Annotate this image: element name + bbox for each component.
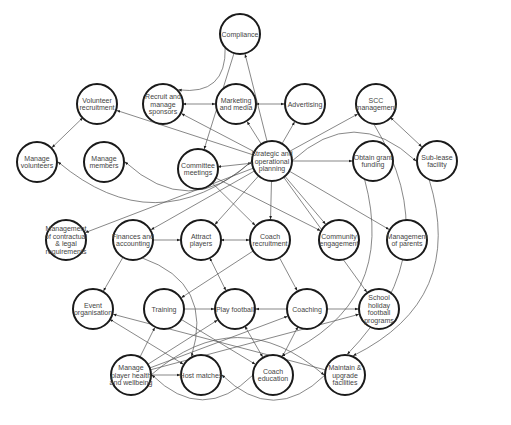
edge-volunteer-recruitment-to-manage-volunteers	[52, 118, 83, 148]
edge-strategic-planning-to-marketing-media	[247, 122, 261, 144]
network-diagram: ComplianceVolunteerrecruitmentRecruit an…	[0, 0, 511, 425]
node-label: organisation	[74, 309, 112, 317]
edge-player-health-to-maintain-facilities	[151, 338, 324, 375]
node-manage-members: Managemembers	[84, 142, 124, 182]
node-label: sponsors	[149, 108, 178, 116]
node-label: Compliance	[222, 31, 259, 39]
node-label: School	[368, 294, 390, 301]
node-event-organisation: Eventorganisation	[73, 289, 113, 329]
node-community-engagement: Communityengagement	[319, 220, 359, 260]
node-recruit-sponsors: Recruit andmanagesponsors	[143, 84, 183, 124]
node-coaching: Coaching	[287, 289, 327, 329]
node-label: Host matches	[180, 372, 223, 379]
node-label: Maintain &	[328, 364, 361, 371]
node-label: Volunteer	[82, 97, 112, 104]
edge-strategic-planning-to-community-engagement	[285, 176, 325, 224]
edge-committee-meetings-to-coach-recruitment	[212, 183, 255, 225]
node-label: requirements	[46, 248, 87, 256]
node-label: Attract	[191, 233, 211, 240]
edge-obtain-grant-to-coach-education	[282, 179, 372, 356]
node-label: Sub-lease	[421, 154, 453, 161]
node-label: recruitment	[79, 104, 114, 111]
edge-finances-to-event-organisation	[104, 257, 123, 291]
node-label: Coach	[260, 233, 280, 240]
node-label: facilities	[333, 379, 358, 386]
node-committee-meetings: Committeemeetings	[178, 149, 218, 189]
node-label: Play football	[216, 306, 255, 314]
node-management-parents: Managementof parents	[387, 220, 428, 260]
node-play-football: Play football	[215, 289, 255, 329]
node-label: Advertising	[288, 101, 323, 109]
node-label: volunteers	[21, 162, 54, 169]
node-label: of parents	[391, 240, 423, 248]
node-label: and wellbeing	[110, 379, 153, 387]
node-finances: Finances andaccounting	[112, 220, 154, 260]
node-manage-volunteers: Managevolunteers	[17, 142, 57, 182]
node-attract-players: Attractplayers	[181, 220, 221, 260]
node-compliance: Compliance	[220, 14, 260, 54]
node-label: management	[356, 104, 397, 112]
node-coach-education: Coacheducation	[253, 355, 293, 395]
node-volunteer-recruitment: Volunteerrecruitment	[77, 84, 117, 124]
edge-strategic-planning-to-coach-recruitment	[271, 181, 272, 219]
node-maintain-facilities: Maintain &upgradefacilities	[325, 355, 365, 395]
edge-coach-recruitment-to-coaching	[279, 258, 297, 291]
node-label: programs	[364, 317, 394, 325]
node-label: Event	[84, 302, 102, 309]
node-host-matches: Host matches	[180, 355, 223, 395]
node-label: meetings	[184, 169, 213, 177]
node-contractual-legal: Managementof contractual& legalrequireme…	[45, 220, 87, 260]
node-label: accounting	[116, 240, 150, 248]
edge-scc-management-to-sub-lease	[391, 118, 422, 147]
node-label: football	[368, 309, 391, 316]
edge-compliance-to-recruit-sponsors	[179, 47, 226, 90]
node-label: and media	[220, 104, 253, 111]
edge-player-health-to-school-holiday	[150, 314, 358, 369]
edge-sub-lease-to-maintain-facilities	[353, 179, 438, 355]
node-school-holiday: Schoolholidayfootballprograms	[359, 289, 399, 329]
node-training: Training	[144, 289, 184, 329]
node-label: players	[190, 240, 213, 248]
node-obtain-grant: Obtain grantfunding	[353, 141, 393, 181]
node-label: SCC	[369, 97, 384, 104]
node-coach-recruitment: Coachrecruitment	[250, 220, 290, 260]
node-label: planning	[259, 165, 286, 173]
node-player-health: Manageplayer healthand wellbeing	[110, 355, 153, 395]
node-label: engagement	[320, 240, 359, 248]
edge-strategic-planning-to-advertising	[282, 122, 294, 144]
node-label: education	[258, 375, 288, 382]
node-label: Training	[151, 306, 176, 314]
node-label: facility	[427, 161, 447, 169]
node-label: of contractual	[45, 233, 87, 240]
node-label: Coaching	[292, 306, 322, 314]
node-label: members	[89, 162, 119, 169]
node-label: Committee	[181, 162, 215, 169]
node-label: Recruit and	[145, 93, 181, 100]
node-label: Finances and	[112, 233, 154, 240]
node-label: recruitment	[252, 240, 287, 247]
node-strategic-planning: Strategic andoperationalplanning	[251, 141, 292, 181]
node-label: Coach	[263, 368, 283, 375]
node-sub-lease: Sub-leasefacility	[417, 141, 457, 181]
node-label: funding	[362, 161, 385, 169]
node-scc-management: SCCmanagement	[356, 84, 397, 124]
node-marketing-media: Marketingand media	[216, 84, 256, 124]
node-advertising: Advertising	[285, 84, 325, 124]
